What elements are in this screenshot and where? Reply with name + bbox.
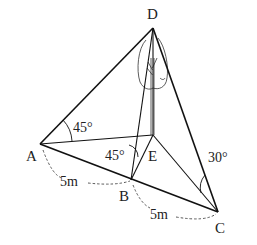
label-C: C bbox=[215, 220, 225, 236]
edge-DC bbox=[153, 28, 218, 212]
angle-arc-C bbox=[200, 175, 205, 193]
angle-label-A: 45° bbox=[73, 120, 93, 135]
angle-label-B: 45° bbox=[105, 148, 125, 163]
distance-label-AB: 5m bbox=[60, 174, 78, 189]
distance-arc-BC bbox=[133, 185, 216, 219]
edge-DA bbox=[40, 28, 153, 144]
distance-label-BC: 5m bbox=[150, 207, 168, 222]
angle-label-C: 30° bbox=[208, 150, 228, 165]
label-A: A bbox=[26, 148, 37, 164]
label-E: E bbox=[148, 148, 157, 164]
label-B: B bbox=[119, 188, 129, 204]
geometry-diagram: D A E B C 45° 45° 30° 5m 5m bbox=[0, 0, 257, 245]
label-D: D bbox=[147, 6, 158, 22]
edge-CE bbox=[153, 135, 218, 212]
angle-arc-A bbox=[63, 120, 72, 141]
angle-arc-B bbox=[129, 145, 138, 157]
